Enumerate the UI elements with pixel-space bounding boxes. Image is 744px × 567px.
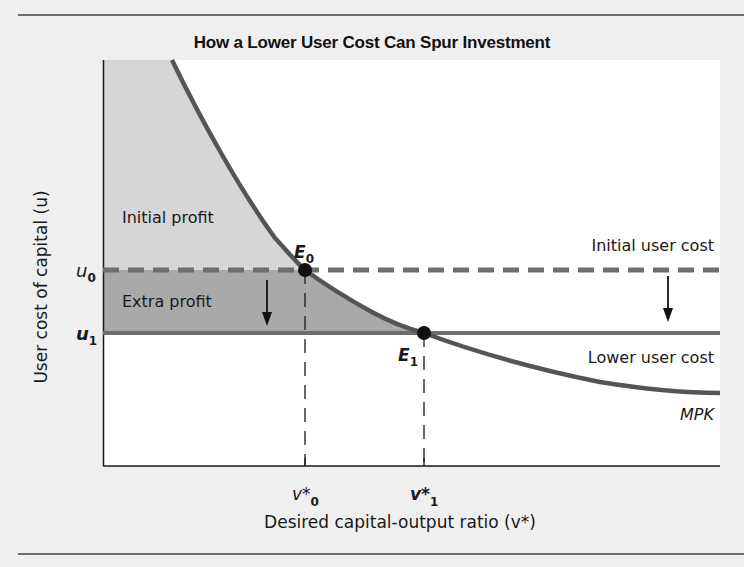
v0-label: v*0 [292,484,319,509]
y-axis-title: User cost of capital (u) [31,190,51,383]
u1-label: u1 [76,323,97,348]
extra-profit-label: Extra profit [122,292,212,311]
chart: Initial profit Extra profit Initial user… [0,0,744,567]
initial-user-cost-label: Initial user cost [591,236,714,255]
lower-user-cost-label: Lower user cost [588,348,714,367]
bottom-rule [18,553,744,555]
e1-point [417,326,431,340]
u0-label: u0 [76,260,96,285]
mpk-label: MPK [680,405,715,424]
v1-label: v*1 [410,484,438,509]
initial-profit-label: Initial profit [122,208,214,227]
x-axis-title: Desired capital-output ratio (v*) [264,512,536,532]
